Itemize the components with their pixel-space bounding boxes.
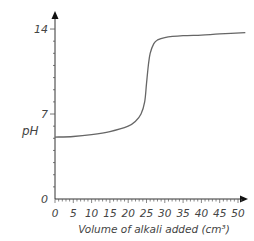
x-tick-label: 5 bbox=[70, 207, 77, 219]
y-tick-labels: 0714 bbox=[34, 23, 48, 206]
x-tick-label: 30 bbox=[158, 207, 172, 219]
x-tick-label: 15 bbox=[103, 207, 117, 219]
x-tick-label: 0 bbox=[52, 207, 59, 219]
x-tick-label: 35 bbox=[176, 207, 190, 219]
y-axis bbox=[50, 11, 59, 199]
x-axis-label: Volume of alkali added (cm³) bbox=[78, 223, 230, 235]
x-tick-label: 40 bbox=[195, 207, 209, 219]
y-tick-label: 7 bbox=[41, 108, 48, 121]
y-tick-label: 0 bbox=[41, 193, 48, 206]
titration-chart: 0714 05101520253035404550 pH Volume of a… bbox=[0, 0, 254, 241]
y-axis-arrow-icon bbox=[52, 11, 59, 19]
x-tick-label: 45 bbox=[213, 207, 227, 219]
y-tick-label: 14 bbox=[34, 23, 48, 36]
y-axis-label: pH bbox=[21, 124, 39, 138]
x-axis bbox=[55, 196, 248, 204]
x-tick-labels: 05101520253035404550 bbox=[52, 207, 245, 219]
x-axis-arrow-icon bbox=[240, 196, 248, 203]
x-tick-label: 20 bbox=[122, 207, 136, 219]
x-tick-label: 10 bbox=[85, 207, 99, 219]
titration-curve bbox=[55, 33, 245, 137]
x-tick-label: 50 bbox=[231, 207, 245, 219]
x-tick-label: 25 bbox=[140, 207, 154, 219]
